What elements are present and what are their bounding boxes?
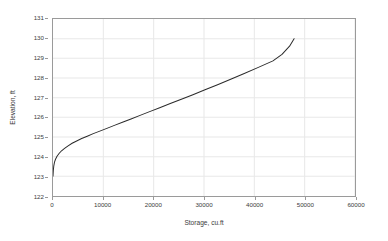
x-tick-mark: [52, 197, 53, 200]
x-axis-title: Storage, cu.ft: [52, 219, 356, 227]
x-tick-label: 60000: [347, 202, 364, 208]
y-tick-mark: [45, 98, 48, 99]
y-tick-mark: [45, 38, 48, 39]
y-tick-mark: [45, 137, 48, 138]
y-tick-label: 122: [34, 194, 44, 200]
y-axis-title: Elevation, ft: [8, 18, 18, 197]
y-tick-label: 124: [34, 154, 44, 160]
y-tick-label: 129: [34, 55, 44, 61]
y-tick-label: 131: [34, 15, 44, 21]
x-tick-mark: [255, 197, 256, 200]
y-tick-label: 123: [34, 174, 44, 180]
x-tick-mark: [103, 197, 104, 200]
y-tick-label: 128: [34, 75, 44, 81]
y-tick-label: 127: [34, 94, 44, 100]
plot-area: [52, 18, 356, 197]
chart-figure: 122123124125126127128129130131 010000200…: [0, 0, 388, 241]
y-tick-mark: [45, 58, 48, 59]
x-tick-label: 30000: [195, 202, 212, 208]
x-tick-mark: [356, 197, 357, 200]
y-tick-label: 130: [34, 35, 44, 41]
x-axis-tick-labels: 0100002000030000400005000060000: [52, 197, 356, 215]
y-tick-mark: [45, 18, 48, 19]
y-tick-label: 125: [34, 134, 44, 140]
x-tick-label: 0: [50, 202, 53, 208]
y-tick-mark: [45, 78, 48, 79]
y-tick-label: 126: [34, 114, 44, 120]
x-tick-mark: [153, 197, 154, 200]
data-series-line: [53, 19, 355, 196]
x-tick-label: 20000: [145, 202, 162, 208]
y-tick-mark: [45, 157, 48, 158]
x-tick-mark: [204, 197, 205, 200]
y-tick-mark: [45, 177, 48, 178]
y-tick-mark: [45, 197, 48, 198]
x-tick-label: 10000: [94, 202, 111, 208]
x-tick-label: 40000: [246, 202, 263, 208]
y-tick-mark: [45, 117, 48, 118]
x-tick-label: 50000: [297, 202, 314, 208]
x-tick-mark: [305, 197, 306, 200]
